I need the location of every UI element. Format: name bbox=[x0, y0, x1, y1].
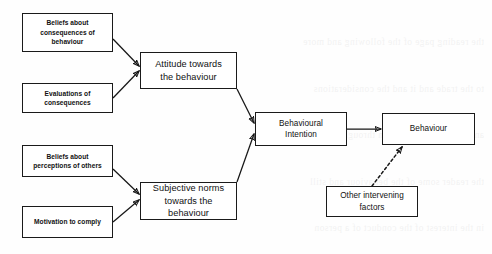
node-label: Beliefs about consequences of behaviour bbox=[23, 18, 112, 46]
node-beliefs-perceptions: Beliefs about perceptions of others bbox=[22, 145, 113, 177]
edge-attitude-to-intention bbox=[237, 89, 254, 123]
node-label: Attitude towards the behaviour bbox=[141, 58, 236, 83]
node-beliefs-consequences: Beliefs about consequences of behaviour bbox=[22, 13, 113, 52]
node-behavioural-intention: Behavioural Intention bbox=[255, 112, 347, 146]
node-behaviour: Behaviour bbox=[382, 113, 475, 145]
diagram-canvas: the reading page of the following and mo… bbox=[0, 0, 492, 254]
edge-factors-to-behaviour bbox=[372, 147, 402, 186]
node-label: Behaviour bbox=[383, 123, 474, 134]
edge-motivation-to-norms bbox=[113, 200, 139, 222]
node-label: Other intervening factors bbox=[327, 190, 417, 213]
edge-beliefs-consequences-to-attitude bbox=[113, 39, 139, 66]
node-evaluations-consequences: Evaluations of consequences bbox=[22, 83, 113, 113]
node-motivation-comply: Motivation to comply bbox=[22, 206, 113, 238]
node-label: Beliefs about perceptions of others bbox=[23, 152, 112, 171]
node-label: Behavioural Intention bbox=[256, 118, 346, 141]
node-subjective-norms: Subjective norms towards the behaviour bbox=[140, 182, 237, 220]
edge-beliefs-perceptions-to-norms bbox=[113, 169, 139, 194]
node-attitude: Attitude towards the behaviour bbox=[140, 52, 237, 89]
node-label: Subjective norms towards the behaviour bbox=[141, 182, 236, 220]
node-label: Evaluations of consequences bbox=[23, 89, 112, 108]
edge-norms-to-intention bbox=[237, 134, 254, 182]
edge-evaluations-to-attitude bbox=[113, 71, 139, 98]
node-label: Motivation to comply bbox=[23, 217, 112, 226]
node-other-intervening-factors: Other intervening factors bbox=[326, 186, 418, 217]
